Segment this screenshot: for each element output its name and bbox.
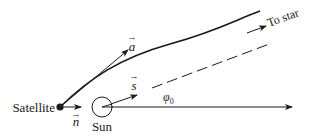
satellite-label: Satellite (12, 100, 55, 115)
gravitational-deflection-diagram: Satellite Sun → a → s → n φ0 To star (0, 0, 315, 139)
vector-s-label: s (131, 78, 136, 93)
vector-a-arrow (60, 50, 128, 107)
to-star-label: To star (265, 5, 301, 29)
phi-zero-label: φ0 (163, 90, 174, 106)
to-star-arrow (247, 26, 266, 33)
phi-subscript: 0 (170, 97, 174, 106)
diagram-canvas: Satellite Sun → a → s → n φ0 To star (0, 0, 315, 139)
sun-label: Sun (92, 119, 113, 134)
dashed-star-direction-line (152, 43, 272, 88)
vector-a-label: a (129, 39, 136, 54)
satellite-dot (56, 103, 63, 110)
vector-n-label: n (73, 114, 80, 129)
